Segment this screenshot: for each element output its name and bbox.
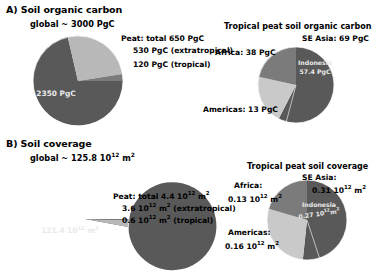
- label-se-asia-carbon: SE Asia: 69 PgC: [302, 33, 369, 44]
- indo-cov-sup2: 2: [336, 206, 340, 211]
- callout-b-line2: 3.6 1012 m2 (extratropical): [113, 203, 236, 215]
- callout-b-line2-c: (extratropical): [171, 204, 236, 213]
- africa-cov-a: 0.13 10: [228, 195, 260, 204]
- callout-b-line1: Peat: total 4.4 1012 m2: [113, 191, 236, 203]
- label-se-asia-coverage-value: 0.31 1012 m2: [312, 185, 366, 196]
- label-africa-carbon: Africa: 38 PgC: [215, 47, 276, 58]
- chart-b-left-inside-b: m: [85, 226, 95, 235]
- africa-cov-sup2: 2: [278, 193, 282, 199]
- chart-b-left-inside-a: 121.4 10: [41, 226, 77, 235]
- se-asia-cov-sup2: 2: [362, 184, 366, 190]
- americas-cov-sup2: 2: [275, 240, 279, 246]
- label-americas-carbon: Americas: 13 PgC: [203, 104, 278, 115]
- callout-a-line3: 120 PgC (tropical): [121, 56, 233, 71]
- chart-b-left-inside-sup: 12: [77, 225, 84, 231]
- label-africa-coverage-name: Africa:: [234, 180, 262, 191]
- callout-b-line3-a: 0.6 10: [122, 216, 149, 225]
- panel-b-title: B) Soil coverage: [6, 138, 92, 149]
- chart-a-left-svg: [30, 33, 126, 129]
- panel-b-global-label: global ~ 125.8 1012 m2: [30, 153, 135, 163]
- label-americas-coverage-value: 0.16 1012 m2: [225, 241, 279, 252]
- callout-a-line1: Peat: total 650 PgC: [121, 33, 233, 45]
- africa-cov-b: m: [268, 195, 279, 204]
- label-indonesia-carbon-name: Indonesia: [288, 58, 342, 67]
- chart-a-right-title: Tropical peat soil organic carbon: [224, 22, 371, 31]
- callout-b-line1-b: m: [195, 192, 206, 201]
- callout-b-line3: 0.6 1012 m2 (tropical): [113, 215, 236, 227]
- callout-b-line3-b: m: [156, 216, 167, 225]
- se-asia-cov-sup: 12: [344, 184, 352, 190]
- panel-a-title: A) Soil organic carbon: [6, 4, 122, 15]
- chart-b-left-inside-label: 121.4 1012 m2: [30, 226, 110, 235]
- panel-b-global-sup2: 2: [131, 152, 135, 158]
- panel-a-global-label: global ~ 3000 PgC: [30, 19, 115, 29]
- callout-b-line1-a: Peat: total 4.4 10: [113, 192, 188, 201]
- americas-cov-b: m: [265, 242, 276, 251]
- se-asia-cov-a: 0.31 10: [312, 186, 344, 195]
- chart-b-right-title: Tropical peat soil coverage: [247, 162, 368, 171]
- label-se-asia-coverage-name: SE Asia:: [302, 172, 336, 183]
- panel-b-global-suffix: m: [119, 153, 130, 163]
- americas-cov-a: 0.16 10: [225, 242, 257, 251]
- label-indonesia-carbon: Indonesia 57.4 PgC: [288, 58, 342, 76]
- chart-b-left-inside-sup2: 2: [95, 225, 99, 231]
- figure-root: A) Soil organic carbon global ~ 3000 PgC…: [0, 0, 381, 273]
- label-indonesia-coverage: Indonesia 0.27 1012m2: [288, 200, 350, 218]
- callout-b-line2-b: m: [156, 204, 167, 213]
- label-africa-coverage-value: 0.13 1012 m2: [228, 194, 282, 205]
- americas-cov-sup: 12: [257, 240, 265, 246]
- callout-b-line1-sup2: 2: [206, 190, 210, 196]
- chart-a-left-pie: [30, 33, 126, 129]
- se-asia-cov-b: m: [352, 186, 363, 195]
- panel-b-global-prefix: global ~ 125.8 10: [30, 153, 111, 163]
- chart-b-left-callout: Peat: total 4.4 1012 m2 3.6 1012 m2 (ext…: [113, 191, 236, 227]
- callout-b-line3-c: (tropical): [171, 216, 213, 225]
- label-americas-coverage-name: Americas:: [228, 227, 270, 238]
- chart-a-left-inside-label: 2350 PgC: [26, 89, 86, 98]
- africa-cov-sup: 12: [260, 193, 268, 199]
- callout-b-line2-a: 3.6 10: [122, 204, 149, 213]
- label-indonesia-carbon-value: 57.4 PgC: [288, 67, 342, 76]
